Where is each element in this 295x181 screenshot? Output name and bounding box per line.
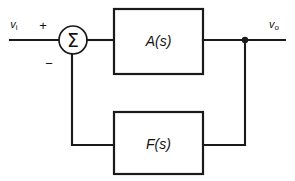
plus-sign-label: + xyxy=(39,18,47,33)
sigma-symbol: Σ xyxy=(67,29,79,51)
minus-sign-label: − xyxy=(45,56,53,71)
forward-block-label: A(s) xyxy=(145,33,172,49)
output-voltage-subscript: o xyxy=(275,23,280,32)
block-diagram-svg: Σ + − A(s) F(s) vi vo xyxy=(0,0,295,181)
feedback-block-label: F(s) xyxy=(146,136,171,152)
input-voltage-label: vi xyxy=(10,18,18,32)
block-diagram-canvas: Σ + − A(s) F(s) vi vo xyxy=(0,0,295,181)
output-voltage-label: vo xyxy=(269,18,280,32)
input-voltage-subscript: i xyxy=(16,23,18,32)
